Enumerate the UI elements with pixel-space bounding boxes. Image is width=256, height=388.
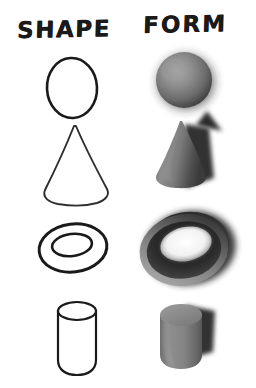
row-1-circle-outline (45, 57, 98, 120)
sphere-highlight (161, 59, 187, 81)
row-3-ring-outline (36, 220, 109, 276)
cone-outline (44, 126, 108, 205)
row-1-sphere-shaded (152, 49, 222, 131)
cylinder-highlight (163, 321, 176, 368)
row-2-cone-shaded (156, 121, 214, 188)
cylinder-outline-top (58, 302, 96, 320)
shape-form-diagram: SHAPE FORM (0, 0, 256, 388)
column-header-shape: SHAPE (17, 15, 112, 43)
figures-canvas (0, 0, 256, 388)
row-4-cylinder-shaded (160, 304, 215, 369)
torus-ambient-shadow (138, 204, 241, 293)
cone-body (156, 121, 206, 188)
torus-hole (157, 222, 215, 266)
cylinder-body (160, 315, 202, 369)
cone-highlight (163, 134, 178, 181)
ring-inner-outline (51, 232, 93, 259)
cylinder-top-face (160, 304, 202, 326)
row-4-cylinder-outline (58, 302, 96, 375)
cone-cast-shadow (185, 124, 214, 188)
cylinder-cast-shadow (184, 305, 215, 360)
torus-hole-edge (157, 222, 215, 266)
circle-outline (45, 57, 98, 120)
row-3-torus-shaded (138, 204, 242, 293)
row-2-cone-outline (44, 126, 108, 205)
cylinder-outline-body (58, 311, 96, 375)
sphere-cast-shadow (196, 111, 222, 131)
torus-rim-light (138, 211, 230, 288)
sphere-body (156, 52, 212, 108)
column-header-form: FORM (143, 10, 228, 38)
sphere-halo-shadow (152, 49, 220, 115)
torus-body (139, 205, 236, 287)
ring-outer-outline (36, 220, 109, 276)
